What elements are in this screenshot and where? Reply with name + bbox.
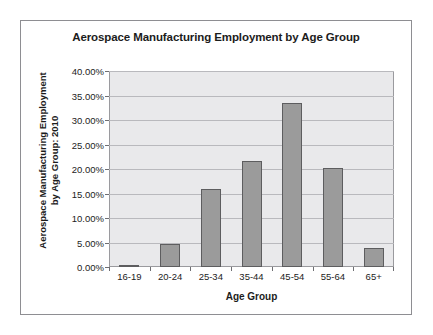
x-tick-label: 20-24 bbox=[150, 271, 191, 282]
x-tick-label: 65+ bbox=[353, 271, 394, 282]
y-tick-label: 35.00% bbox=[72, 90, 104, 101]
bar[interactable] bbox=[242, 161, 262, 267]
x-tick-mark bbox=[272, 267, 273, 271]
y-tick-label: 30.00% bbox=[72, 115, 104, 126]
x-tick-label: 35-44 bbox=[231, 271, 272, 282]
y-tick-label: 20.00% bbox=[72, 164, 104, 175]
bar[interactable] bbox=[201, 189, 221, 267]
y-tick-label: 5.00% bbox=[77, 237, 104, 248]
x-tick-mark bbox=[313, 267, 314, 271]
x-tick-label: 55-64 bbox=[313, 271, 354, 282]
y-tick-label: 40.00% bbox=[72, 66, 104, 77]
y-tick-label: 0.00% bbox=[77, 262, 104, 273]
bar-slot bbox=[353, 71, 394, 267]
bar[interactable] bbox=[323, 168, 343, 267]
y-tick-label: 25.00% bbox=[72, 139, 104, 150]
x-tick-mark bbox=[150, 267, 151, 271]
chart-frame: Aerospace Manufacturing Employment by Ag… bbox=[20, 20, 412, 315]
x-tick-mark bbox=[353, 267, 354, 271]
bar[interactable] bbox=[160, 244, 180, 267]
plot-wrapper: 0.00%5.00%10.00%15.00%20.00%25.00%30.00%… bbox=[109, 71, 394, 267]
bar[interactable] bbox=[119, 265, 139, 267]
y-tick-label: 15.00% bbox=[72, 188, 104, 199]
x-tick-mark bbox=[109, 267, 110, 271]
bar[interactable] bbox=[282, 103, 302, 267]
x-tick-label: 25-34 bbox=[190, 271, 231, 282]
bar-slot bbox=[313, 71, 354, 267]
bar-series bbox=[109, 71, 394, 267]
x-axis-title: Age Group bbox=[109, 291, 394, 302]
y-axis-title: Aerospace Manufacturing Employment by Ag… bbox=[37, 61, 60, 261]
y-axis-title-line-1: Aerospace Manufacturing Employment bbox=[37, 61, 49, 261]
bar-slot bbox=[190, 71, 231, 267]
bar-slot bbox=[109, 71, 150, 267]
chart-title: Aerospace Manufacturing Employment by Ag… bbox=[21, 31, 411, 43]
bar-slot bbox=[231, 71, 272, 267]
bar-slot bbox=[150, 71, 191, 267]
x-tick-mark bbox=[231, 267, 232, 271]
y-tick-label: 10.00% bbox=[72, 213, 104, 224]
x-tick-label: 16-19 bbox=[109, 271, 150, 282]
x-axis-ticks: 16-1920-2425-3435-4445-5455-6465+ bbox=[109, 271, 394, 282]
y-axis-title-line-2: by Age Group: 2010 bbox=[48, 61, 60, 261]
x-tick-label: 45-54 bbox=[272, 271, 313, 282]
bar-slot bbox=[272, 71, 313, 267]
bar[interactable] bbox=[364, 248, 384, 267]
x-tick-mark bbox=[190, 267, 191, 271]
x-tick-mark bbox=[393, 267, 394, 271]
